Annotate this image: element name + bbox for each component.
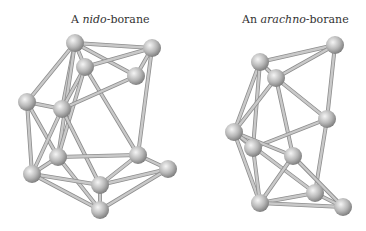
boron-atom <box>326 36 344 54</box>
boron-atom <box>23 165 41 183</box>
boron-atom <box>91 201 109 219</box>
boron-atom <box>129 146 147 164</box>
boron-atom <box>159 160 177 178</box>
boron-atom <box>251 53 269 71</box>
boron-atom <box>127 67 145 85</box>
nido-borane-molecule <box>18 34 177 219</box>
boron-atom <box>66 34 84 52</box>
boron-atom <box>334 198 352 216</box>
boron-atom <box>318 110 336 128</box>
boron-atom <box>306 184 324 202</box>
boron-atom <box>143 39 161 57</box>
boron-atom <box>251 194 269 212</box>
borane-structures-diagram <box>0 0 366 231</box>
boron-atom <box>49 148 67 166</box>
boron-atom <box>53 100 71 118</box>
arachno-borane-molecule <box>225 36 352 216</box>
boron-atom <box>284 147 302 165</box>
boron-atom <box>244 139 262 157</box>
bond <box>62 109 100 185</box>
boron-atom <box>225 123 243 141</box>
boron-atom <box>18 93 36 111</box>
boron-atom <box>91 176 109 194</box>
boron-atom <box>267 69 285 87</box>
bond <box>327 45 335 119</box>
boron-atom <box>76 58 94 76</box>
